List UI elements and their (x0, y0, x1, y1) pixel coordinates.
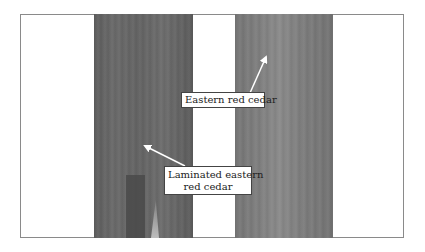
eastern-cedar-sample (235, 14, 333, 238)
figure-frame (20, 14, 404, 238)
eastern-label-text: Eastern red cedar (185, 94, 277, 105)
laminated-label-line2: red cedar (168, 181, 248, 193)
dark-knot-region (126, 175, 145, 238)
eastern-red-cedar-label: Eastern red cedar (181, 92, 265, 108)
laminated-cedar-label: Laminated eastern red cedar (164, 166, 252, 195)
laminated-label-line1: Laminated eastern (168, 169, 248, 181)
